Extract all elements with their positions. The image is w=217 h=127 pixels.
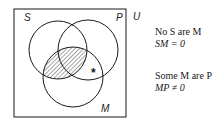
existence-marker-icon: *: [91, 68, 96, 78]
statement-1: No S are M SM = 0: [155, 26, 201, 50]
set-m-label: M: [101, 104, 109, 114]
statement-2-formula: MP ≠ 0: [155, 82, 212, 94]
set-p-label: P: [116, 13, 123, 23]
statement-2-text: Some M are P: [155, 70, 212, 82]
statement-1-text: No S are M: [155, 26, 201, 38]
set-s-label: S: [24, 13, 31, 23]
universe-label: U: [133, 12, 140, 22]
statement-2: Some M are P MP ≠ 0: [155, 70, 212, 94]
statement-1-formula: SM = 0: [155, 38, 201, 50]
